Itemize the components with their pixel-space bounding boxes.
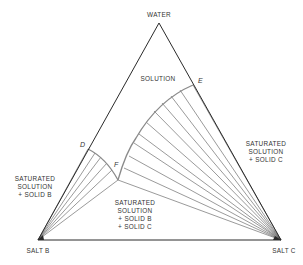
point-label-e: E: [198, 77, 203, 84]
svg-text:+ SOLID B: + SOLID B: [118, 215, 151, 222]
svg-text:SATURATED: SATURATED: [15, 175, 56, 182]
vertex-label-salt-c: SALT C: [272, 247, 296, 254]
svg-text:+ SOLID C: + SOLID C: [118, 223, 152, 230]
point-label-d: D: [80, 141, 85, 148]
region-label-solution: SOLUTION: [140, 75, 175, 82]
svg-text:SATURATED: SATURATED: [246, 140, 287, 147]
svg-text:+ SOLID C: + SOLID C: [249, 156, 283, 163]
svg-text:SATURATED: SATURATED: [115, 199, 156, 206]
point-label-f: F: [114, 161, 119, 168]
svg-text:SOLUTION: SOLUTION: [17, 183, 52, 190]
vertex-label-water: WATER: [147, 11, 171, 18]
region-label-saturated-solid-c: SATURATED SOLUTION + SOLID C: [246, 140, 287, 163]
region-label-saturated-solid-b-c: SATURATED SOLUTION + SOLID B + SOLID C: [115, 199, 156, 230]
triangle-outline: [38, 23, 281, 240]
vertex-label-salt-b: SALT B: [26, 247, 49, 254]
svg-text:SOLUTION: SOLUTION: [248, 148, 283, 155]
ternary-phase-diagram: WATER SALT B SALT C D E F SOLUTION SATUR…: [0, 0, 303, 265]
svg-text:SOLUTION: SOLUTION: [117, 207, 152, 214]
svg-text:+ SOLID B: + SOLID B: [18, 191, 51, 198]
region-label-saturated-solid-b: SATURATED SOLUTION + SOLID B: [15, 175, 56, 198]
